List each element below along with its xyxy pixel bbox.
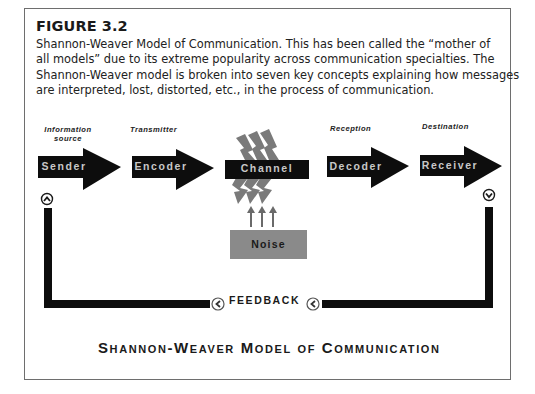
chevron-left-circle-icon (307, 298, 319, 310)
node-noise-label: Noise (230, 238, 307, 250)
feedback-line-bottom-right (322, 300, 493, 308)
chevron-up-circle-icon (42, 194, 53, 205)
node-encoder-label: Encoder (132, 160, 190, 172)
feedback-label: FEEDBACK (229, 294, 300, 306)
node-decoder-label: Decoder (327, 160, 385, 172)
feedback-line-bottom-left (44, 300, 210, 308)
chevron-down-circle-icon (484, 190, 495, 201)
chevron-left-circle-icon (212, 298, 224, 310)
node-channel-label: Channel (225, 162, 309, 174)
feedback-line-left-vertical (44, 208, 52, 308)
node-receiver-label: Receiver (420, 159, 480, 171)
feedback-line-right-vertical (485, 207, 493, 308)
node-sender-label: Sender (40, 160, 88, 172)
diagram-title: Shannon-Weaver Model of Communication (98, 339, 441, 356)
noise-arrows (247, 206, 277, 227)
diagram-graphics (0, 0, 535, 394)
